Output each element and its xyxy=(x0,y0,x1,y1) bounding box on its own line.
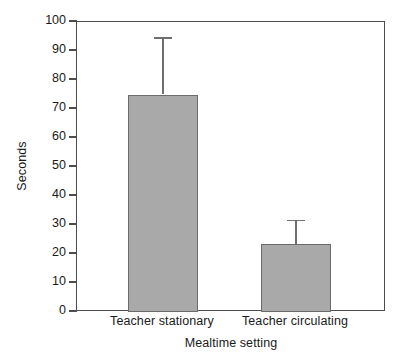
chart-figure: Seconds 0102030405060708090100 Teacher s… xyxy=(0,0,408,362)
bar xyxy=(261,244,331,312)
x-axis-title: Mealtime setting xyxy=(76,336,386,350)
error-bar-cap xyxy=(154,37,172,38)
y-tick-label: 30 xyxy=(4,217,66,229)
y-tick-label: 90 xyxy=(4,43,66,55)
y-tick-label: 50 xyxy=(4,159,66,171)
y-tick-label: 20 xyxy=(4,246,66,258)
y-tick-label: 100 xyxy=(4,14,66,26)
error-bar-cap xyxy=(287,220,305,221)
y-tick-label: 0 xyxy=(4,304,66,316)
y-tick-label: 70 xyxy=(4,101,66,113)
error-bar-stem xyxy=(295,221,296,244)
bar xyxy=(128,95,198,313)
error-bar-stem xyxy=(162,38,163,95)
y-tick-label: 10 xyxy=(4,275,66,287)
x-tick-label: Teacher circulating xyxy=(215,314,375,328)
y-tick-label: 80 xyxy=(4,72,66,84)
y-tick-label: 40 xyxy=(4,188,66,200)
plot-area xyxy=(76,21,385,311)
y-tick-label: 60 xyxy=(4,130,66,142)
